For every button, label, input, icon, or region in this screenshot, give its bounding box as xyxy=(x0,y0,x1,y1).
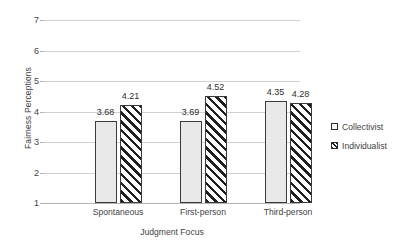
bar-individualist-spontaneous xyxy=(120,105,142,203)
legend-swatch-individualist-icon xyxy=(331,142,338,149)
bar-value-label: 4.21 xyxy=(122,91,140,101)
x-axis-title: Judgment Focus xyxy=(44,227,300,237)
y-axis-title: Fairness Perceptions xyxy=(23,33,33,183)
tick-mark-3 xyxy=(40,142,44,143)
cat-label-2: Third-person xyxy=(264,207,313,217)
bar-value-label: 4.52 xyxy=(207,82,225,92)
tick-mark-5 xyxy=(40,81,44,82)
y-tick-label-2: 2 xyxy=(34,168,39,178)
bar-value-label: 3.68 xyxy=(97,107,115,117)
cat-label-1: First-person xyxy=(180,207,226,217)
plot-area: 76543213.683.694.354.214.524.28 xyxy=(44,20,300,203)
legend-swatch-collectivist-icon xyxy=(331,123,338,130)
bar-value-label: 4.35 xyxy=(267,87,285,97)
bar-individualist-third-person xyxy=(290,103,312,203)
bar-collectivist-spontaneous xyxy=(95,121,117,203)
bar-chart: Fairness Perceptions 76543213.683.694.35… xyxy=(0,0,409,248)
y-tick-label-4: 4 xyxy=(34,107,39,117)
tick-mark-2 xyxy=(40,173,44,174)
bar-collectivist-first-person xyxy=(180,121,202,203)
legend-item-individualist: Individualist xyxy=(331,136,387,155)
gridline-1 xyxy=(44,203,300,204)
legend-item-collectivist: Collectivist xyxy=(331,117,387,136)
legend-label-individualist: Individualist xyxy=(342,141,387,151)
bar-collectivist-third-person xyxy=(265,101,287,203)
gridline-6 xyxy=(44,51,300,52)
tick-mark-4 xyxy=(40,112,44,113)
gridline-2 xyxy=(44,173,300,174)
gridline-4 xyxy=(44,112,300,113)
y-tick-label-3: 3 xyxy=(34,137,39,147)
tick-mark-7 xyxy=(40,20,44,21)
gridline-7 xyxy=(44,20,300,21)
tick-mark-6 xyxy=(40,51,44,52)
y-tick-label-6: 6 xyxy=(34,46,39,56)
legend: Collectivist Individualist xyxy=(331,117,387,155)
y-tick-label-1: 1 xyxy=(34,198,39,208)
gridline-3 xyxy=(44,142,300,143)
y-tick-label-7: 7 xyxy=(34,15,39,25)
y-tick-label-5: 5 xyxy=(34,76,39,86)
cat-label-0: Spontaneous xyxy=(93,207,144,217)
bar-value-label: 4.28 xyxy=(292,89,310,99)
tick-mark-1 xyxy=(40,203,44,204)
bar-individualist-first-person xyxy=(205,96,227,203)
bar-value-label: 3.69 xyxy=(182,107,200,117)
gridline-5 xyxy=(44,81,300,82)
legend-label-collectivist: Collectivist xyxy=(342,122,383,132)
